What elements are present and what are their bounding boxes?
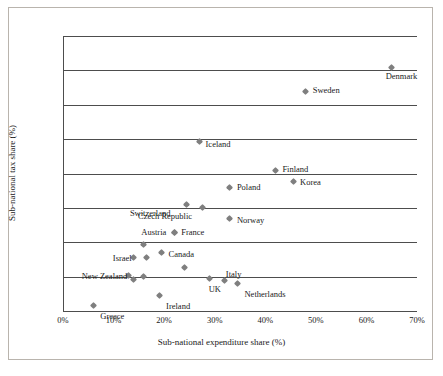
diamond-marker-icon: [90, 302, 97, 309]
diamond-marker-icon: [226, 184, 233, 191]
point-label-france: France: [181, 227, 204, 237]
gridline-y-30%: [63, 105, 417, 106]
gridline-y-15%: [63, 208, 417, 209]
data-point-iceland: [196, 138, 203, 145]
x-tick-label: 10%: [106, 315, 122, 325]
data-point-poland: [226, 184, 233, 191]
plot-area: GreeceIrelandNetherlandsItalyUKIsraelNew…: [63, 36, 417, 311]
data-point-switzerland: [183, 201, 190, 208]
point-label-austria: Austria: [141, 227, 166, 237]
x-tick-label: 40%: [257, 315, 273, 325]
data-point-finland: [272, 167, 279, 174]
diamond-marker-icon: [302, 87, 309, 94]
gridline-y-35%: [63, 70, 417, 71]
data-point: [140, 241, 147, 248]
point-label-denmark: Denmark: [386, 71, 418, 81]
data-point-czech-republic: [199, 204, 206, 211]
point-label-norway: Norway: [237, 215, 264, 225]
point-label-netherlands: Netherlands: [244, 289, 285, 299]
diamond-marker-icon: [140, 273, 147, 280]
x-tick-label: 20%: [156, 315, 172, 325]
diamond-marker-icon: [206, 274, 213, 281]
x-axis-title: Sub-national expenditure share (%): [0, 337, 443, 347]
point-label-sweden: Sweden: [313, 85, 340, 95]
point-label-canada: Canada: [169, 249, 195, 259]
gridline-y-10%: [63, 242, 417, 243]
gridline-y-40%: [63, 36, 417, 37]
data-point-korea: [290, 178, 297, 185]
diamond-marker-icon: [234, 280, 241, 287]
point-label-poland: Poland: [237, 182, 261, 192]
point-label-italy: Italy: [226, 269, 242, 279]
diamond-marker-icon: [181, 264, 188, 271]
data-point-norway: [226, 215, 233, 222]
data-point: [181, 264, 188, 271]
data-point: [140, 273, 147, 280]
diamond-marker-icon: [156, 292, 163, 299]
data-point: [143, 254, 150, 261]
data-point-france: [171, 229, 178, 236]
x-axis-ticks: 0%10%20%30%40%50%60%70%: [0, 315, 443, 331]
diamond-marker-icon: [290, 178, 297, 185]
scatter-chart: Sub-national tax share (%) 0%5%10%15%20%…: [0, 0, 443, 376]
data-point-greece: [90, 302, 97, 309]
x-tick-label: 70%: [409, 315, 425, 325]
data-point-sweden: [302, 88, 309, 95]
data-point-uk: [206, 275, 213, 282]
x-tick-label: 0%: [57, 315, 68, 325]
diamond-marker-icon: [226, 215, 233, 222]
diamond-marker-icon: [199, 204, 206, 211]
point-label-korea: Korea: [300, 177, 321, 187]
diamond-marker-icon: [171, 229, 178, 236]
point-label-new-zealand: New Zealand: [82, 271, 128, 281]
diamond-marker-icon: [140, 241, 147, 248]
gridline-y-25%: [63, 139, 417, 140]
point-label-uk: UK: [209, 284, 221, 294]
point-label-israel: Israel: [113, 253, 132, 263]
diamond-marker-icon: [272, 167, 279, 174]
gridline-y-20%: [63, 174, 417, 175]
diamond-marker-icon: [183, 201, 190, 208]
point-label-iceland: Iceland: [206, 139, 231, 149]
x-tick-label: 30%: [207, 315, 223, 325]
data-point-canada: [158, 249, 165, 256]
point-label-finland: Finland: [282, 164, 308, 174]
diamond-marker-icon: [143, 254, 150, 261]
x-tick-label: 50%: [308, 315, 324, 325]
point-label-ireland: Ireland: [166, 301, 190, 311]
data-point-netherlands: [234, 280, 241, 287]
diamond-marker-icon: [196, 138, 203, 145]
diamond-marker-icon: [158, 249, 165, 256]
point-label-switzerland: Switzerland: [130, 208, 171, 218]
x-tick-label: 60%: [359, 315, 375, 325]
data-point-ireland: [156, 292, 163, 299]
